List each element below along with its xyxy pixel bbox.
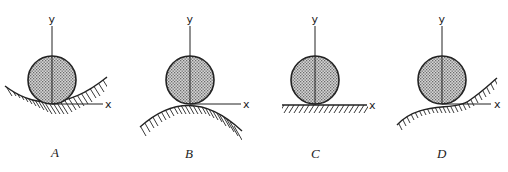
y-axis-label: y bbox=[49, 13, 56, 26]
panel-a: y x A bbox=[2, 13, 112, 160]
panel-label: C bbox=[311, 146, 320, 161]
panel-d: y x D bbox=[396, 13, 502, 161]
surface-hatching bbox=[279, 105, 369, 113]
panel-label: B bbox=[185, 146, 193, 161]
y-axis-label: y bbox=[439, 13, 446, 26]
x-axis-label: x bbox=[494, 98, 501, 111]
y-axis-label: y bbox=[187, 13, 194, 26]
equilibrium-diagram: y x A y x bbox=[0, 0, 508, 172]
x-axis-label: x bbox=[369, 99, 376, 112]
panel-label: D bbox=[436, 146, 447, 161]
panel-c: y x C bbox=[279, 13, 376, 161]
x-axis-label: x bbox=[105, 98, 112, 111]
y-axis-label: y bbox=[312, 13, 319, 26]
panel-label: A bbox=[50, 145, 59, 160]
x-axis-label: x bbox=[243, 98, 250, 111]
panel-b: y x B bbox=[138, 13, 250, 161]
